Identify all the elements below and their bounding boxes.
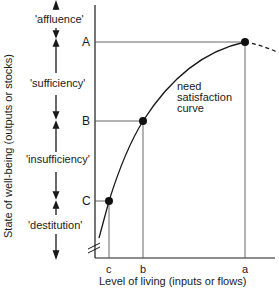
diagram-canvas bbox=[0, 0, 279, 295]
axis-break-icon bbox=[88, 243, 100, 253]
zone-label-sufficiency: 'sufficiency' bbox=[30, 77, 85, 89]
point-b bbox=[139, 117, 147, 125]
y-axis-label: State of well-being (outputs or stocks) bbox=[2, 46, 14, 246]
guide-lines bbox=[95, 42, 245, 258]
zone-label-affluence: 'affluence' bbox=[35, 13, 84, 25]
need-satisfaction-curve bbox=[99, 42, 245, 238]
point-c bbox=[105, 197, 113, 205]
level-label-C: C bbox=[82, 195, 91, 207]
level-label-a: a bbox=[242, 263, 248, 275]
curve-label-line3: curve bbox=[177, 102, 204, 114]
zone-label-insufficiency: 'insufficiency' bbox=[26, 153, 90, 165]
level-label-A: A bbox=[82, 36, 90, 48]
level-label-B: B bbox=[82, 115, 90, 127]
x-axis-label: Level of living (inputs or flows) bbox=[99, 275, 246, 287]
level-label-c: c bbox=[106, 263, 112, 275]
point-a bbox=[241, 38, 249, 46]
level-label-b: b bbox=[140, 263, 146, 275]
curve-extension-dashed bbox=[245, 42, 277, 52]
zone-label-destitution: 'destitution' bbox=[28, 219, 82, 231]
